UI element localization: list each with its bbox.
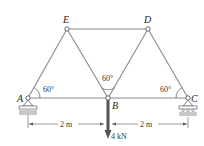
angle-label-a: 60° <box>43 85 54 94</box>
joint-a <box>26 96 30 100</box>
joint-d <box>146 27 150 31</box>
member-bd <box>108 29 148 98</box>
dimension-left: 2 m <box>60 120 73 129</box>
joint-c <box>186 96 190 100</box>
joint-label-b: B <box>112 100 118 111</box>
truss-diagram: 60° 60° 60° 4 kN A B C D E 2 m 2 m <box>0 0 204 146</box>
joint-label-e: E <box>62 14 69 25</box>
member-eb <box>67 29 108 98</box>
dimension-right: 2 m <box>140 120 153 129</box>
joint-e <box>65 27 69 31</box>
load-label: 4 kN <box>111 132 127 141</box>
angle-label-c: 60° <box>160 85 171 94</box>
joint-label-d: D <box>143 14 152 25</box>
angle-arc-a <box>34 88 40 98</box>
joint-label-c: C <box>191 93 198 104</box>
angle-arc-c <box>176 88 182 98</box>
joint-label-a: A <box>16 93 24 104</box>
angle-label-b: 60° <box>102 74 113 83</box>
joint-b <box>106 96 110 100</box>
